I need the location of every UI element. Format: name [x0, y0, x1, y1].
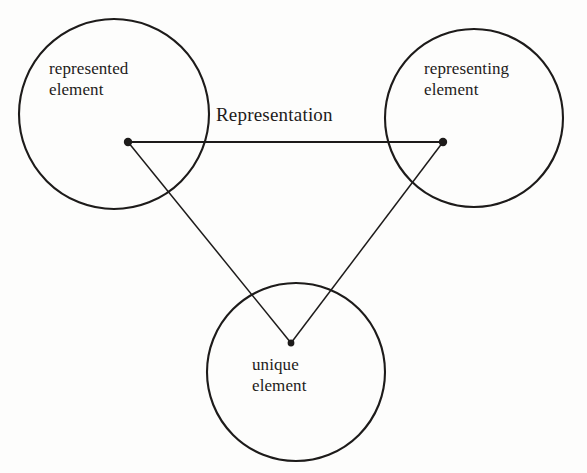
circle-represented-element — [19, 19, 209, 209]
vertex-dot-representing-element — [439, 138, 447, 146]
circle-representing-element — [385, 29, 563, 207]
vertex-dot-unique-element — [288, 340, 295, 347]
edge-represented-unique — [128, 142, 291, 343]
representation-triangle-diagram — [0, 0, 587, 473]
vertex-dot-represented-element — [124, 138, 132, 146]
edge-representing-unique — [291, 142, 443, 343]
diagram-canvas: representedelement representingelement u… — [0, 0, 587, 473]
circle-unique-element — [207, 283, 385, 461]
